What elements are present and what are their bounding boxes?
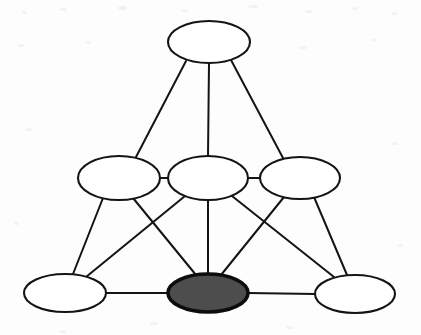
diagram-canvas (0, 0, 421, 335)
node-bottom-left[interactable] (24, 274, 106, 312)
graph-edge-n1-n3[interactable] (208, 63, 209, 156)
node-bottom-right[interactable] (315, 275, 395, 313)
graph-edge-n2-n5[interactable] (73, 198, 103, 274)
node-mid-right[interactable] (260, 157, 340, 199)
graph-edge-n1-n2[interactable] (136, 61, 186, 157)
graph-edge-n3-n5[interactable] (86, 196, 185, 277)
node-bottom-center[interactable] (168, 274, 248, 312)
node-top[interactable] (168, 21, 250, 63)
node-mid-center[interactable] (168, 156, 248, 200)
graph-edge-n6-n7[interactable] (248, 293, 315, 294)
graph-edge-n1-n4[interactable] (231, 60, 283, 158)
node-mid-left[interactable] (78, 156, 160, 200)
graph-edge-n4-n6[interactable] (221, 197, 284, 275)
graph-edge-n2-n6[interactable] (133, 198, 196, 275)
graph-edge-n4-n7[interactable] (314, 197, 347, 275)
network-graph (0, 0, 421, 335)
